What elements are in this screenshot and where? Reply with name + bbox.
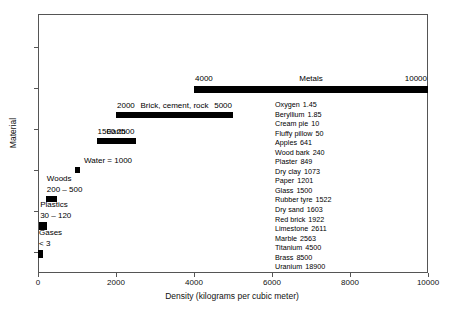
density-annotation-list: Oxygen1.45Beryllium1.85Cream pie10Fluffy…	[275, 100, 332, 272]
x-tick-mark	[350, 273, 351, 277]
x-tick-mark	[194, 273, 195, 277]
density-list-item: Marble2563	[275, 234, 332, 244]
bar-range-label: 200 – 500	[47, 185, 83, 195]
density-list-item: Apples641	[275, 138, 332, 148]
density-list-item: Red brick1922	[275, 215, 332, 225]
density-list-item: Rubber tyre1522	[275, 195, 332, 205]
bar-name-label: Water = 1000	[84, 156, 132, 166]
x-tick-label: 10000	[417, 278, 439, 288]
density-list-material: Red brick	[275, 215, 305, 224]
bar-range-label: < 3	[39, 239, 50, 249]
density-list-value: 1500	[296, 186, 312, 195]
density-list-value: 1922	[308, 215, 324, 224]
y-axis-title: Material	[8, 103, 18, 163]
x-tick-label: 4000	[185, 278, 203, 288]
density-chart-figure: 4000Metals100002000Brick, cement, rock50…	[0, 0, 464, 313]
density-list-value: 240	[313, 148, 325, 157]
range-bar	[116, 112, 233, 118]
x-tick-label: 8000	[341, 278, 359, 288]
density-list-item: Wood bark240	[275, 148, 332, 158]
y-tick-mark	[34, 252, 38, 253]
density-list-material: Brass	[275, 253, 293, 262]
density-list-item: Glass1500	[275, 186, 332, 196]
bar-high-value: 10000	[405, 74, 427, 84]
x-tick-label: 0	[36, 278, 40, 288]
density-list-material: Paper	[275, 176, 294, 185]
density-list-value: 1.45	[303, 100, 317, 109]
range-bar	[194, 86, 428, 93]
density-list-value: 1522	[316, 195, 332, 204]
density-list-item: Fluffy pillow50	[275, 129, 332, 139]
y-tick-mark	[34, 170, 38, 171]
x-axis-ticks: 0200040006000800010000	[38, 273, 428, 278]
density-list-material: Uranium	[275, 262, 302, 271]
range-bar	[75, 167, 80, 173]
y-tick-mark	[34, 129, 38, 130]
density-list-item: Beryllium1.85	[275, 110, 332, 120]
y-tick-mark	[34, 88, 38, 89]
range-bar	[38, 250, 43, 258]
density-list-material: Marble	[275, 234, 297, 243]
density-list-item: Cream pie10	[275, 119, 332, 129]
density-list-value: 1201	[297, 176, 313, 185]
density-list-material: Oxygen	[275, 100, 300, 109]
bar-name-label: Metals	[299, 74, 323, 84]
x-tick-label: 2000	[107, 278, 125, 288]
y-axis-ticks	[34, 14, 38, 273]
range-bar	[97, 138, 136, 144]
density-list-material: Cream pie	[275, 119, 308, 128]
x-tick-mark	[428, 273, 429, 277]
bar-name-label: Brick, cement, rock	[140, 101, 208, 111]
density-list-material: Glass	[275, 186, 293, 195]
density-list-value: 849	[300, 157, 312, 166]
density-list-material: Limestone	[275, 224, 308, 233]
density-list-material: Beryllium	[275, 110, 305, 119]
density-list-material: Fluffy pillow	[275, 129, 312, 138]
x-tick-mark	[116, 273, 117, 277]
density-list-value: 1603	[307, 205, 323, 214]
density-list-item: Paper1201	[275, 176, 332, 186]
density-list-item: Limestone2611	[275, 224, 332, 234]
bar-name-label: Plastics	[40, 200, 68, 210]
density-list-item: Titanium4500	[275, 243, 332, 253]
density-list-value: 2563	[300, 234, 316, 243]
density-list-material: Titanium	[275, 243, 302, 252]
x-tick-label: 6000	[263, 278, 281, 288]
density-list-value: 50	[315, 129, 323, 138]
density-list-value: 2611	[311, 224, 326, 233]
bar-name-label: Gases	[39, 228, 62, 238]
bar-high-value: 5000	[214, 101, 232, 111]
density-list-value: 18900	[305, 262, 325, 271]
density-list-item: Plaster849	[275, 157, 332, 167]
density-list-item: Uranium18900	[275, 262, 332, 272]
bar-range-label: 30 – 120	[40, 211, 71, 221]
x-tick-mark	[38, 273, 39, 277]
density-list-material: Dry clay	[275, 167, 301, 176]
bar-high-value: 2500	[117, 127, 135, 137]
density-list-material: Apples	[275, 138, 297, 147]
density-list-material: Wood bark	[275, 148, 310, 157]
bar-low-value: 2000	[117, 101, 135, 111]
density-list-material: Rubber tyre	[275, 195, 313, 204]
x-tick-mark	[272, 273, 273, 277]
density-list-value: 1073	[304, 167, 320, 176]
density-list-value: 10	[311, 119, 319, 128]
y-tick-mark	[34, 211, 38, 212]
density-list-value: 4500	[305, 243, 321, 252]
density-list-material: Dry sand	[275, 205, 304, 214]
density-list-value: 1.85	[308, 110, 322, 119]
density-list-item: Dry clay1073	[275, 167, 332, 177]
x-axis-title: Density (kilograms per cubic meter)	[0, 291, 464, 302]
density-list-item: Brass8500	[275, 253, 332, 263]
density-list-value: 641	[300, 138, 312, 147]
bar-name-label: Woods	[47, 174, 72, 184]
density-list-item: Oxygen1.45	[275, 100, 332, 110]
y-tick-mark	[34, 47, 38, 48]
density-list-item: Dry sand1603	[275, 205, 332, 215]
density-list-value: 8500	[296, 253, 312, 262]
density-list-material: Plaster	[275, 157, 297, 166]
bar-low-value: 4000	[195, 74, 213, 84]
